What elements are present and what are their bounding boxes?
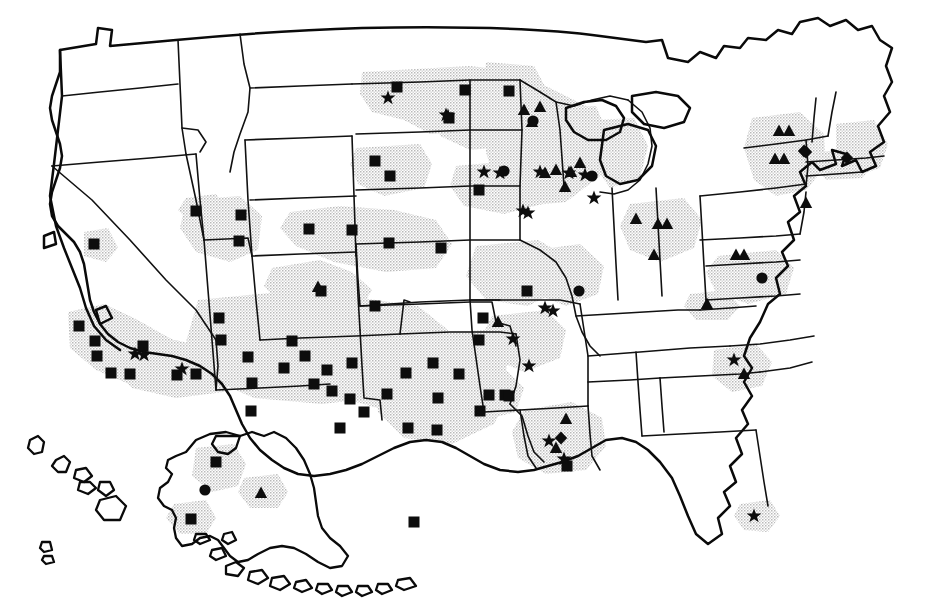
marker-square (236, 210, 247, 221)
coastline-detail (44, 50, 120, 350)
marker-square (370, 301, 381, 312)
marker-square (460, 85, 471, 96)
marker-square (74, 321, 85, 332)
marker-square (474, 335, 485, 346)
marker-square (382, 389, 393, 400)
hawaii-inset (28, 436, 126, 564)
marker-circle (199, 484, 210, 495)
marker-square (300, 351, 311, 362)
marker-square (345, 394, 356, 405)
marker-square (347, 358, 358, 369)
marker-square (246, 406, 257, 417)
map-canvas (0, 0, 925, 608)
marker-square (106, 368, 117, 379)
marker-square (347, 225, 358, 236)
marker-square (522, 286, 533, 297)
marker-circle (573, 285, 584, 296)
marker-square (243, 352, 254, 363)
marker-square (384, 238, 395, 249)
marker-square (287, 336, 298, 347)
marker-square (309, 379, 320, 390)
marker-square (279, 363, 290, 374)
marker-square (385, 171, 396, 182)
marker-circle (498, 165, 509, 176)
us-distribution-map (0, 0, 925, 608)
marker-square (474, 185, 485, 196)
marker-square (454, 369, 465, 380)
marker-square (322, 365, 333, 376)
marker-square (216, 335, 227, 346)
marker-square (370, 156, 381, 167)
marker-square (401, 368, 412, 379)
marker-square (90, 336, 101, 347)
marker-square (432, 425, 443, 436)
marker-square (392, 82, 403, 93)
shading-layer (68, 62, 888, 534)
marker-square (484, 390, 495, 401)
marker-circle (756, 272, 767, 283)
marker-star (587, 190, 602, 204)
marker-square (125, 369, 136, 380)
marker-square (436, 243, 447, 254)
marker-square (327, 386, 338, 397)
marker-square (191, 369, 202, 380)
marker-square (335, 423, 346, 434)
marker-square (428, 358, 439, 369)
marker-square (504, 86, 515, 97)
marker-square (475, 406, 486, 417)
marker-circle (586, 170, 597, 181)
marker-square (359, 407, 370, 418)
marker-square (138, 341, 149, 352)
marker-circle (527, 115, 538, 126)
marker-square (92, 351, 103, 362)
marker-square (304, 224, 315, 235)
marker-square (403, 423, 414, 434)
marker-square (214, 313, 225, 324)
marker-square (409, 517, 420, 528)
marker-triangle (800, 196, 812, 208)
marker-square (433, 393, 444, 404)
marker-square (89, 239, 100, 250)
marker-square (191, 206, 202, 217)
marker-square (478, 313, 489, 324)
marker-square (211, 457, 222, 468)
marker-square (234, 236, 245, 247)
marker-square (247, 378, 258, 389)
marker-square (504, 391, 515, 402)
marker-square (186, 514, 197, 525)
